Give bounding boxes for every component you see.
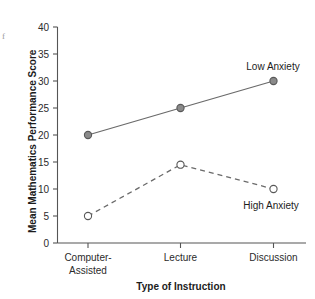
figure-container: f 40 35 30 25 20 15 10 5 0 Mean Mathemat…: [0, 0, 315, 299]
x-tick-label-computer-assisted-line2: Assisted: [69, 265, 107, 276]
y-tick-label-40: 40: [38, 22, 50, 33]
y-tick-label-20: 20: [38, 130, 50, 141]
data-point-marker: [270, 185, 277, 192]
data-point-marker: [270, 77, 277, 84]
x-tick-label-lecture: Lecture: [164, 252, 198, 263]
y-tick-label-35: 35: [38, 49, 50, 60]
figure-corner-mark: f: [2, 31, 5, 41]
y-tick-label-5: 5: [43, 211, 49, 222]
y-tick-label-0: 0: [43, 238, 49, 249]
series-annotation-low-anxiety: Low Anxiety: [246, 61, 299, 72]
x-tick-label-computer-assisted-line1: Computer-: [64, 252, 111, 263]
y-tick-label-10: 10: [38, 184, 50, 195]
series-annotation-high-anxiety: High Anxiety: [243, 200, 299, 211]
data-point-marker: [177, 161, 184, 168]
x-tick-label-discussion: Discussion: [249, 252, 297, 263]
x-axis-title: Type of Instruction: [136, 281, 225, 292]
data-point-marker: [84, 131, 91, 138]
data-point-marker: [177, 104, 184, 111]
y-tick-label-15: 15: [38, 157, 50, 168]
y-axis-title: Mean Mathematics Performance Score: [27, 49, 38, 233]
data-point-marker: [84, 212, 91, 219]
line-chart: 40 35 30 25 20 15 10 5 0 Mean Mathematic…: [0, 0, 315, 299]
x-axis-ticks: [88, 243, 274, 248]
y-axis-ticks: [53, 27, 58, 243]
y-tick-label-30: 30: [38, 76, 50, 87]
series-markers-low-anxiety: [84, 77, 277, 138]
y-tick-label-25: 25: [38, 103, 50, 114]
